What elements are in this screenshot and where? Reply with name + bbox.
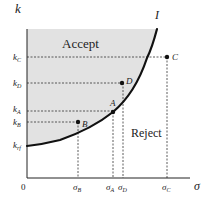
tick-sigma-d: σD xyxy=(118,182,127,193)
origin-label: 0 xyxy=(21,182,26,192)
tick-kd: kD xyxy=(13,78,22,89)
accept-label: Accept xyxy=(62,36,99,51)
point-b xyxy=(76,120,80,124)
tick-sigma-a: σA xyxy=(106,182,114,193)
tick-krf: krf xyxy=(13,140,22,151)
y-axis-label: k xyxy=(15,1,21,16)
y-tick-labels: kC kD kA kB krf xyxy=(13,52,22,151)
tick-kc: kC xyxy=(13,52,22,63)
tick-sigma-b: σB xyxy=(73,182,81,193)
point-a xyxy=(111,110,115,114)
point-c-label: C xyxy=(172,52,179,62)
point-b-label: B xyxy=(82,119,88,129)
point-d xyxy=(120,81,124,85)
curve-label: I xyxy=(154,8,160,22)
point-a-label: A xyxy=(109,98,116,108)
x-tick-labels: σB σA σD σC xyxy=(73,182,171,193)
point-d-label: D xyxy=(125,76,133,86)
x-axis-label: σ xyxy=(194,179,201,193)
tick-kb: kB xyxy=(13,117,21,128)
accept-reject-diagram: k σ 0 I Accept Reject A B C D kC kD kA k… xyxy=(0,0,212,200)
reject-label: Reject xyxy=(131,126,162,140)
tick-ka: kA xyxy=(13,104,21,115)
tick-sigma-c: σC xyxy=(162,182,171,193)
point-c xyxy=(165,55,169,59)
